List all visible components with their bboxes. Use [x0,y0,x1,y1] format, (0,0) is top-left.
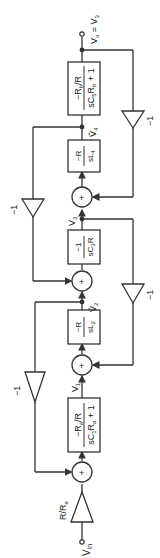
output-terminal: Vo = V3 [80,14,100,44]
summer-3: + [72,271,92,291]
svg-text:−1: −1 [74,242,83,252]
block-5-transfer: −Rb/R sC5Rb + 1 [68,62,100,115]
svg-text:−R: −R [74,151,83,162]
svg-text:−1: −1 [145,116,155,126]
svg-text:+: + [79,361,84,371]
summer-4: + [72,187,92,207]
svg-text:−1: −1 [145,290,155,300]
input-gain-amplifier: R/Ra [58,492,93,522]
node-v1-label: V1 [70,382,81,392]
svg-text:−1: −1 [9,205,19,215]
svg-text:+: + [79,193,84,203]
output-label: Vo = V3 [89,14,100,44]
input-label: Vin [81,544,93,556]
svg-text:−R: −R [74,322,83,333]
node-v4-label: V̂4 [88,127,99,137]
summer-1: + [72,462,92,482]
input-gain-label: R/Ra [58,501,69,521]
summer-2: + [72,355,92,375]
block-diagram: Vin R/Ra + −Ra/R sC1Ra + 1 V1 + −R sL2 [0,0,160,558]
svg-text:−1: −1 [12,386,22,396]
svg-text:sC1Ra + 1: sC1Ra + 1 [86,405,97,444]
svg-text:sC3R: sC3R [86,237,96,256]
input-terminal: Vin [80,540,93,556]
block-3-transfer: −1 sC3R [68,230,100,264]
svg-text:sC5Rb + 1: sC5Rb + 1 [86,68,97,107]
block-2-transfer: −R sL2 [68,310,100,344]
svg-text:+: + [79,468,84,478]
node-v2-label: V̂2 [88,302,99,312]
node-v3-label: V3 [67,216,78,226]
block-4-transfer: −R sL4 [68,140,100,172]
svg-text:+: + [79,277,84,287]
block-1-transfer: −Ra/R sC1Ra + 1 [68,398,100,452]
